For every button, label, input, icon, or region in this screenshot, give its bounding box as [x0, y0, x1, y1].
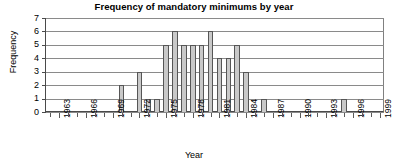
x-tick-mark	[246, 113, 247, 118]
y-tick-label: 7	[25, 14, 39, 23]
bar	[341, 99, 347, 112]
y-axis-line	[45, 18, 46, 113]
x-tick-mark	[193, 113, 194, 118]
gridline	[46, 85, 384, 86]
x-tick-mark	[255, 113, 256, 117]
x-tick-mark	[353, 113, 354, 118]
x-tick-mark	[86, 113, 87, 118]
gridline	[46, 58, 384, 59]
y-tick-label: 1	[25, 94, 39, 103]
y-tick-mark	[42, 72, 45, 73]
x-tick-label: 1993	[330, 99, 339, 118]
x-tick-mark	[139, 113, 140, 118]
chart-title: Frequency of mandatory minimums by year	[0, 1, 388, 12]
gridline	[46, 18, 384, 19]
x-tick-mark	[68, 113, 69, 117]
y-tick-label: 3	[25, 67, 39, 76]
x-tick-mark	[219, 113, 220, 118]
x-tick-mark	[184, 113, 185, 117]
x-tick-mark	[273, 113, 274, 118]
y-tick-mark	[42, 112, 45, 113]
x-tick-mark	[237, 113, 238, 117]
bar	[261, 99, 267, 112]
x-tick-mark	[157, 113, 158, 117]
x-tick-mark	[362, 113, 363, 117]
x-tick-mark	[380, 113, 381, 118]
x-tick-mark	[300, 113, 301, 118]
bar	[154, 99, 160, 112]
x-tick-mark	[344, 113, 345, 117]
gridline	[46, 45, 384, 46]
x-tick-mark	[50, 113, 51, 117]
x-tick-label: 1999	[384, 99, 393, 118]
x-tick-mark	[228, 113, 229, 117]
x-tick-label: 1981	[223, 99, 232, 118]
x-tick-label: 1966	[90, 99, 99, 118]
x-tick-mark	[175, 113, 176, 117]
x-tick-label: 1969	[117, 99, 126, 118]
x-tick-mark	[264, 113, 265, 117]
bar	[181, 45, 187, 112]
gridline	[46, 72, 384, 73]
x-tick-mark	[104, 113, 105, 117]
bar	[234, 45, 240, 112]
bar	[190, 45, 196, 112]
y-tick-label: 5	[25, 40, 39, 49]
y-tick-label: 4	[25, 54, 39, 63]
x-tick-mark	[291, 113, 292, 117]
y-tick-mark	[42, 31, 45, 32]
x-tick-label: 1987	[277, 99, 286, 118]
gridline	[46, 31, 384, 32]
x-tick-mark	[211, 113, 212, 117]
y-tick-label: 2	[25, 81, 39, 90]
x-tick-label: 1996	[357, 99, 366, 118]
x-tick-mark	[148, 113, 149, 117]
y-tick-label: 6	[25, 27, 39, 36]
y-tick-mark	[42, 58, 45, 59]
x-axis-label: Year	[0, 150, 388, 160]
x-tick-mark	[131, 113, 132, 117]
y-tick-mark	[42, 45, 45, 46]
x-tick-mark	[335, 113, 336, 117]
x-tick-mark	[371, 113, 372, 117]
x-tick-mark	[202, 113, 203, 117]
x-tick-mark	[77, 113, 78, 117]
y-axis-label: Frequency	[8, 17, 18, 87]
x-tick-label: 1978	[197, 99, 206, 118]
plot-area	[46, 18, 384, 112]
x-tick-label: 1984	[250, 99, 259, 118]
y-tick-mark	[42, 85, 45, 86]
x-tick-mark	[326, 113, 327, 118]
x-tick-mark	[113, 113, 114, 118]
y-tick-mark	[42, 99, 45, 100]
bar	[208, 31, 214, 112]
x-tick-mark	[95, 113, 96, 117]
x-tick-mark	[282, 113, 283, 117]
y-tick-mark	[42, 18, 45, 19]
x-tick-mark	[59, 113, 60, 118]
x-tick-mark	[317, 113, 318, 117]
x-tick-mark	[122, 113, 123, 117]
bar	[163, 45, 169, 112]
x-tick-label: 1972	[143, 99, 152, 118]
x-tick-mark	[166, 113, 167, 118]
x-tick-label: 1975	[170, 99, 179, 118]
x-tick-mark	[308, 113, 309, 117]
y-tick-label: 0	[25, 108, 39, 117]
x-tick-label: 1963	[63, 99, 72, 118]
